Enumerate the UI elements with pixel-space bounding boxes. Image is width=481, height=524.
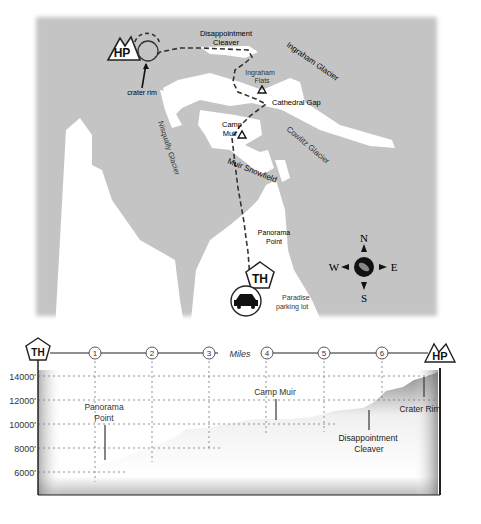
svg-text:6: 6 bbox=[380, 349, 385, 358]
svg-text:HP: HP bbox=[432, 350, 447, 362]
parking-label-line2: parking lot bbox=[276, 303, 308, 311]
ingraham-flats-line1: Ingraham bbox=[245, 69, 275, 77]
annotation-crater-rim: Crater Rim bbox=[399, 404, 440, 414]
elevation-profile-chart: 14000' 12000' 10000' 8000' 6000' Miles 1… bbox=[0, 330, 481, 524]
svg-text:3: 3 bbox=[207, 349, 212, 358]
ingraham-flats-line2: Flats bbox=[254, 77, 270, 84]
panorama-point-line1: Panorama bbox=[258, 229, 290, 236]
svg-text:1: 1 bbox=[93, 349, 98, 358]
mile-marker-3: 3 bbox=[203, 347, 215, 359]
mile-marker-5: 5 bbox=[318, 347, 330, 359]
annotation-dc-1: Disappointment bbox=[338, 433, 398, 443]
compass-w: W bbox=[329, 261, 340, 273]
camp-muir-line1: Camp bbox=[222, 120, 242, 129]
route-map: HP crater rim Disappointment Cleaver Ing… bbox=[0, 0, 481, 330]
crater-rim-label: crater rim bbox=[127, 89, 157, 96]
y-tick-6000: 6000' bbox=[14, 468, 36, 478]
trailhead-badge-profile: TH bbox=[26, 338, 50, 360]
mile-marker-4: 4 bbox=[261, 347, 273, 359]
panorama-point-line2: Point bbox=[266, 238, 282, 245]
mile-marker-1: 1 bbox=[89, 347, 101, 359]
miles-label: Miles bbox=[229, 349, 251, 359]
y-tick-10000: 10000' bbox=[9, 420, 36, 430]
annotation-panorama-2: Point bbox=[94, 413, 114, 423]
camp-muir-line2: Muir bbox=[223, 129, 238, 138]
annotation-panorama-1: Panorama bbox=[84, 402, 123, 412]
dc-label-line2: Cleaver bbox=[213, 38, 239, 47]
mile-marker-2: 2 bbox=[146, 347, 158, 359]
y-tick-12000: 12000' bbox=[9, 396, 36, 406]
summit-badge: HP bbox=[114, 46, 131, 60]
dc-label-line1: Disappointment bbox=[200, 29, 253, 38]
trailhead-badge: TH bbox=[252, 272, 268, 286]
svg-text:2: 2 bbox=[150, 349, 155, 358]
y-axis-labels: 14000' 12000' 10000' 8000' 6000' bbox=[9, 372, 36, 478]
svg-text:TH: TH bbox=[31, 347, 44, 358]
annotation-dc-2: Cleaver bbox=[354, 444, 383, 454]
compass-e: E bbox=[391, 261, 398, 273]
mile-marker-6: 6 bbox=[376, 347, 388, 359]
summit-badge-profile: HP bbox=[425, 344, 455, 362]
y-tick-8000: 8000' bbox=[14, 444, 36, 454]
parking-marker[interactable] bbox=[231, 286, 261, 316]
compass-s: S bbox=[361, 292, 367, 304]
cathedral-gap-label: Cathedral Gap bbox=[272, 98, 321, 107]
y-tick-14000: 14000' bbox=[9, 372, 36, 382]
annotation-camp-muir: Camp Muir bbox=[254, 387, 296, 397]
svg-text:4: 4 bbox=[265, 349, 270, 358]
compass-n: N bbox=[360, 232, 368, 244]
parking-label-line1: Paradise bbox=[282, 294, 310, 301]
svg-text:5: 5 bbox=[322, 349, 327, 358]
